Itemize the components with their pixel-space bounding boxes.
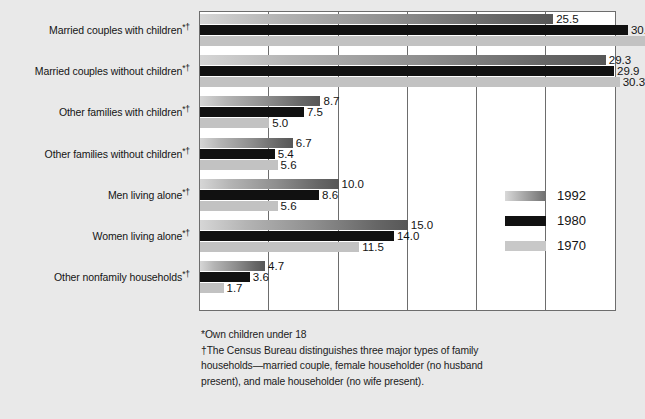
legend-label: 1980 [557, 213, 586, 229]
bar-1970 [200, 36, 645, 46]
category-label: Married couples with children*† [0, 24, 190, 37]
chart-page: Married couples with children*†25.530.94… [0, 0, 645, 419]
bar-1980 [200, 66, 614, 76]
bar-1992 [200, 220, 408, 230]
bar-1992 [200, 179, 339, 189]
bar-value-label: 8.7 [320, 95, 339, 107]
legend-item-1970: 1970 [505, 240, 605, 265]
footnote-marker: *† [182, 104, 190, 114]
chart-row: Married couples without children*†29.329… [0, 55, 645, 91]
bar-value-label: 7.5 [304, 106, 323, 118]
category-label: Men living alone*† [0, 189, 190, 202]
legend-swatch-1970 [505, 241, 546, 251]
bar-value-label: 14.0 [394, 230, 419, 242]
footnote-line: †The Census Bureau distinguishes three m… [201, 343, 531, 359]
category-label: Other families with children*† [0, 106, 190, 119]
footnotes: *Own children under 18†The Census Bureau… [201, 327, 531, 389]
footnote-marker: *† [182, 228, 190, 238]
bar-1980 [200, 272, 250, 282]
footnote-marker: *† [182, 63, 190, 73]
bar-value-label: 30.3 [620, 76, 645, 88]
category-label: Other families without children*† [0, 148, 190, 161]
bar-value-label: 5.6 [278, 200, 297, 212]
chart-row: Other nonfamily households*†4.73.61.7 [0, 261, 645, 297]
bar-value-label: 30.9 [628, 24, 645, 36]
bar-1970 [200, 283, 224, 293]
legend: 199219801970 [505, 190, 605, 265]
bar-value-label: 1.7 [224, 282, 243, 294]
bar-1970 [200, 77, 620, 87]
legend-item-1992: 1992 [505, 190, 605, 215]
footnote-line: *Own children under 18 [201, 327, 531, 343]
bar-1992 [200, 96, 320, 106]
bar-1992 [200, 55, 606, 65]
bar-1992 [200, 14, 553, 24]
bar-1970 [200, 201, 278, 211]
bar-1980 [200, 107, 304, 117]
legend-swatch-1992 [505, 191, 546, 201]
bar-1970 [200, 242, 359, 252]
bar-value-label: 11.5 [359, 241, 384, 253]
bar-value-label: 10.0 [339, 178, 364, 190]
bar-1992 [200, 138, 293, 148]
bar-value-label: 5.6 [278, 159, 297, 171]
footnote-marker: *† [182, 269, 190, 279]
chart-row: Married couples with children*†25.530.94… [0, 14, 645, 50]
bar-value-label: 6.7 [293, 137, 312, 149]
bar-1980 [200, 231, 394, 241]
bar-1970 [200, 160, 278, 170]
legend-item-1980: 1980 [505, 215, 605, 240]
bar-1980 [200, 25, 628, 35]
footnote-marker: *† [182, 22, 190, 32]
category-label: Women living alone*† [0, 230, 190, 243]
legend-swatch-1980 [505, 216, 546, 226]
bar-1980 [200, 190, 319, 200]
bar-value-label: 3.6 [250, 271, 269, 283]
footnote-marker: *† [182, 145, 190, 155]
chart-row: Other families without children*†6.75.45… [0, 138, 645, 174]
bar-1992 [200, 261, 265, 271]
footnote-line: households—married couple, female househ… [201, 358, 531, 374]
bar-value-label: 5.0 [269, 117, 288, 129]
footnote-marker: *† [182, 186, 190, 196]
legend-label: 1992 [557, 188, 586, 204]
bar-value-label: 25.5 [553, 13, 578, 25]
bar-1970 [200, 118, 269, 128]
bar-1980 [200, 149, 275, 159]
footnote-line: present), and male householder (no wife … [201, 374, 531, 390]
category-label: Married couples without children*† [0, 65, 190, 78]
legend-label: 1970 [557, 238, 586, 254]
chart-row: Other families with children*†8.77.55.0 [0, 96, 645, 132]
bar-value-label: 8.6 [319, 189, 338, 201]
category-label: Other nonfamily households*† [0, 271, 190, 284]
